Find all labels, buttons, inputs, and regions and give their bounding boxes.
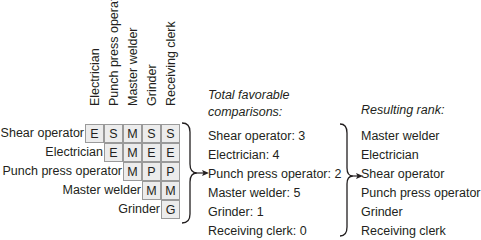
matrix-cell: M <box>161 181 180 200</box>
favorable-item: Punch press operator: 2 <box>208 165 341 184</box>
favorable-item: Electrician: 4 <box>208 146 280 165</box>
rank-item: Receiving clerk <box>361 222 446 240</box>
favorable-item: Shear operator: 3 <box>208 127 305 146</box>
favorable-heading-line2: comparisons: <box>208 104 290 121</box>
matrix-cell: S <box>161 124 180 143</box>
row-label-electrician: Electrician <box>45 143 103 162</box>
row-label-master-welder: Master welder <box>63 181 142 200</box>
favorable-item: Grinder: 1 <box>208 203 264 222</box>
matrix-cell: S <box>142 124 161 143</box>
rank-heading: Resulting rank: <box>361 102 444 119</box>
matrix-cell: G <box>161 200 180 219</box>
brace-arrow-icon <box>180 122 210 224</box>
matrix-cell: M <box>123 162 142 181</box>
column-header-master-welder: Master welder <box>123 0 142 120</box>
column-header-label: Master welder <box>126 28 140 107</box>
matrix-cell: M <box>123 124 142 143</box>
favorable-item: Master welder: 5 <box>208 184 300 203</box>
rank-item: Electrician <box>361 146 419 165</box>
rank-item: Master welder <box>361 127 440 146</box>
column-header-label: Receiving clerk <box>164 21 178 106</box>
column-header-label: Grinder <box>145 64 159 106</box>
matrix-cell: E <box>85 124 104 143</box>
matrix-cell: P <box>142 162 161 181</box>
matrix-cell: P <box>161 162 180 181</box>
column-header-label: Electrician <box>88 48 102 106</box>
rank-item: Punch press operator <box>361 184 481 203</box>
column-header-grinder: Grinder <box>142 0 161 120</box>
row-label-shear-operator: Shear operator <box>1 124 84 143</box>
column-header-receiving-clerk: Receiving clerk <box>161 0 180 120</box>
row-label-grinder: Grinder <box>118 200 160 219</box>
matrix-cell: M <box>142 181 161 200</box>
rank-item: Grinder <box>361 203 403 222</box>
column-header-electrician: Electrician <box>85 0 104 120</box>
matrix-cell: E <box>161 143 180 162</box>
favorable-heading: Total favorable comparisons: <box>208 87 290 121</box>
column-header-label: Punch press operator <box>107 0 121 106</box>
matrix-cell: E <box>104 143 123 162</box>
row-label-punch-press-operator: Punch press operator <box>2 162 122 181</box>
matrix-cell: S <box>104 124 123 143</box>
rank-item: Shear operator <box>361 165 444 184</box>
matrix-cell: M <box>123 143 142 162</box>
column-header-punch-press-operator: Punch press operator <box>104 0 123 120</box>
favorable-item: Receiving clerk: 0 <box>208 222 307 240</box>
matrix-cell: E <box>142 143 161 162</box>
favorable-heading-line1: Total favorable <box>208 87 290 104</box>
